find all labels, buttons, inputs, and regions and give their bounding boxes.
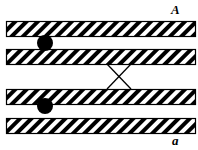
chromatid-4: [7, 119, 196, 134]
chromosome-diagram: [0, 0, 198, 150]
centromere-bottom: [37, 98, 53, 114]
allele-label-a: a: [172, 134, 179, 147]
allele-label-A: A: [171, 3, 180, 16]
chromatid-2: [7, 50, 196, 65]
chromatid-1: [7, 22, 196, 37]
centromere-top: [37, 35, 53, 51]
chromatid-3: [7, 90, 196, 105]
